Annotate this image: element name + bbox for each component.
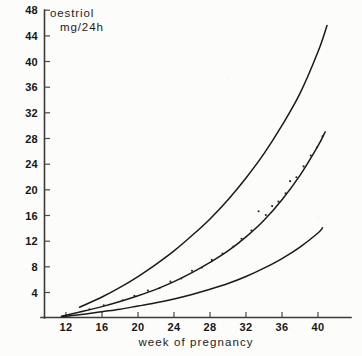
y-tick-label: 24 <box>25 158 38 170</box>
y-tick-label: 28 <box>25 133 38 145</box>
y-axis-title-line2: mg/24h <box>60 21 104 33</box>
y-tick-label: 16 <box>25 210 38 222</box>
data-point <box>122 299 124 301</box>
x-axis-title: week of pregnancy <box>137 336 253 348</box>
y-tick-label: 32 <box>25 107 38 119</box>
data-point <box>240 238 242 240</box>
y-tick-label: 36 <box>25 81 38 93</box>
data-point <box>265 214 267 216</box>
reference-curve <box>80 26 328 308</box>
data-point <box>133 295 135 297</box>
data-point <box>258 210 260 212</box>
data-point <box>211 259 213 261</box>
y-tick-label: 48 <box>25 4 38 16</box>
data-point <box>169 281 171 283</box>
data-point <box>222 252 224 254</box>
y-axis-title-line1: oestriol <box>50 7 94 19</box>
data-point <box>232 245 234 247</box>
x-tick-label: 12 <box>60 321 73 333</box>
data-point <box>191 270 193 272</box>
y-tick-label: 8 <box>32 261 38 273</box>
data-point <box>277 201 279 203</box>
data-point <box>180 277 182 279</box>
data-point <box>321 135 323 137</box>
chart-figure: 48 44 40 36 32 28 24 20 16 12 8 4 12 <box>0 0 362 356</box>
y-axis-tick-labels: 48 44 40 36 32 28 24 20 16 12 8 4 <box>25 4 38 298</box>
data-point <box>285 192 287 194</box>
x-tick-label: 24 <box>168 321 181 333</box>
y-tick-label: 12 <box>25 235 38 247</box>
data-point <box>295 176 297 178</box>
x-tick-label: 32 <box>240 321 253 333</box>
data-point <box>310 154 312 156</box>
x-tick-label: 20 <box>132 321 145 333</box>
data-point <box>88 308 90 310</box>
x-axis-tick-labels: 12 16 20 24 28 32 36 40 <box>60 321 325 333</box>
x-axis-ticks <box>66 312 318 318</box>
x-tick-label: 16 <box>96 321 109 333</box>
data-point <box>147 290 149 292</box>
data-point <box>271 205 273 207</box>
x-tick-label: 28 <box>204 321 217 333</box>
y-tick-label: 40 <box>25 56 38 68</box>
oestriol-pregnancy-chart: 48 44 40 36 32 28 24 20 16 12 8 4 12 <box>0 0 362 356</box>
data-point <box>289 180 291 182</box>
data-point <box>316 146 318 148</box>
x-tick-label: 40 <box>312 321 325 333</box>
y-tick-label: 4 <box>32 287 39 299</box>
data-point <box>159 287 161 289</box>
data-point <box>103 304 105 306</box>
y-tick-label: 44 <box>25 30 38 42</box>
y-axis-ticks <box>45 10 51 292</box>
reference-curve <box>62 132 326 316</box>
data-point <box>201 267 203 269</box>
x-tick-label: 36 <box>276 321 289 333</box>
reference-curves <box>62 26 328 317</box>
data-point <box>250 229 252 231</box>
data-point <box>303 165 305 167</box>
y-tick-label: 20 <box>25 184 38 196</box>
